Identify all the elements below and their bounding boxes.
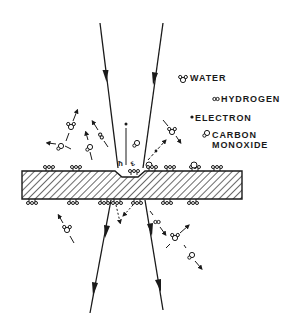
incident-beam-right (143, 23, 163, 168)
target-slab (22, 171, 242, 199)
adsorbed-molecules-bottom (27, 199, 199, 205)
desorbing-molecules-bottom (59, 205, 201, 268)
legend-carbon-monoxide-label-line1: CARBON (212, 130, 257, 140)
legend-water-label: WATER (190, 73, 226, 83)
legend-water: WATER (179, 73, 227, 83)
legend-carbon-monoxide-label-line2: MONOXIDE (212, 140, 268, 150)
electron-icon (190, 115, 193, 118)
incident-beam-left (100, 23, 118, 168)
legend-hydrogen-label: HYDROGEN (221, 94, 280, 104)
water-molecule-icon (179, 75, 188, 82)
legend-carbon-monoxide: CARBON MONOXIDE (203, 130, 268, 150)
svg-text:ε: ε (129, 159, 137, 169)
legend: WATER HYDROGEN ELECTRON CARBON MONOXIDE (179, 73, 281, 150)
transmitted-beam-left (90, 200, 111, 313)
carbon-monoxide-molecule-icon (203, 130, 210, 137)
legend-electron-label: ELECTRON (195, 113, 252, 123)
legend-hydrogen: HYDROGEN (213, 94, 280, 104)
hydrogen-molecule-icon (213, 97, 219, 100)
electron-beam-desorption-diagram: ħ ε WATER HYDROGEN (0, 0, 302, 334)
legend-electron: ELECTRON (190, 113, 251, 123)
svg-text:ħ: ħ (118, 159, 123, 168)
transmitted-beam-right (145, 200, 163, 310)
